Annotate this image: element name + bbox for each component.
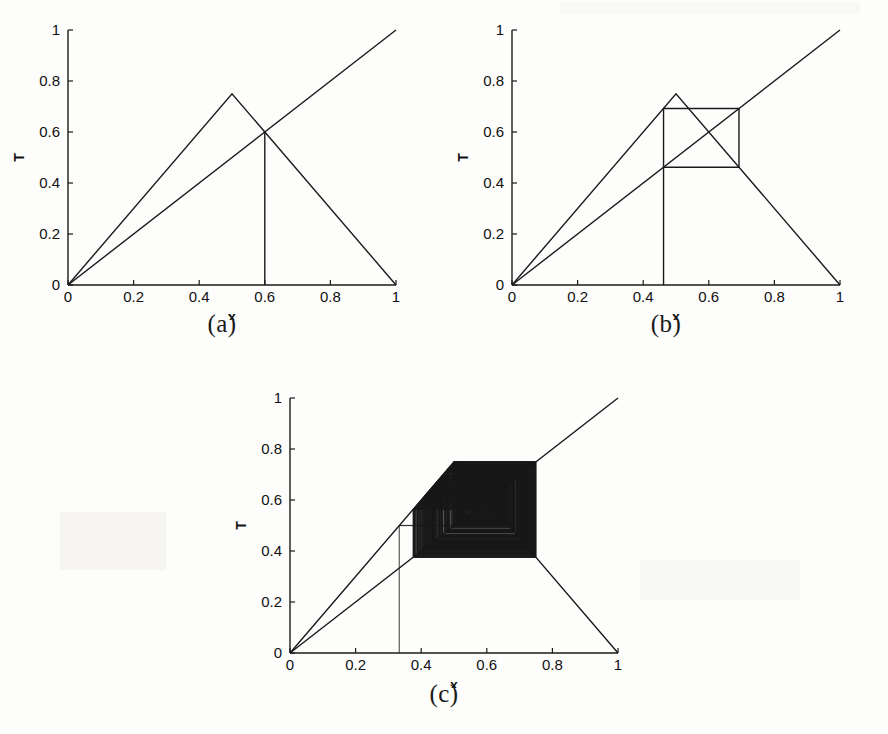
panel-a-plot: 00.20.40.60.8100.20.40.60.81xT [0,0,444,320]
y-tick-label: 0 [274,644,282,661]
y-tick-label: 1 [274,389,282,406]
x-tick-label: 0 [64,288,72,305]
y-tick-label: 1 [496,21,504,38]
panel-b-caption: (b) [444,310,888,338]
paper-smudge-left [60,512,166,570]
y-tick-label: 0 [496,276,504,293]
figure-page: 00.20.40.60.8100.20.40.60.81xT (a) 00.20… [0,0,888,734]
x-tick-label: 0.2 [567,288,588,305]
x-tick-label: 0.6 [254,288,275,305]
series-cobweb-chaotic-spiral-pass3 [413,462,536,558]
x-tick-label: 0.4 [189,288,210,305]
y-tick-label: 0.2 [261,593,282,610]
y-tick-label: 0.8 [261,440,282,457]
panel-c: 00.20.40.60.8100.20.40.60.81xT (c) [222,368,666,734]
y-axis-label: T [233,521,249,530]
y-tick-label: 0.6 [39,123,60,140]
y-tick-label: 0.2 [483,225,504,242]
x-tick-label: 1 [836,288,844,305]
series-identity-line [68,30,396,285]
panel-b: 00.20.40.60.8100.20.40.60.81xT (b) [444,0,888,360]
x-tick-label: 0.6 [698,288,719,305]
y-axis-label: T [455,153,471,162]
x-tick-label: 0.8 [764,288,785,305]
x-tick-label: 0.2 [345,656,366,673]
x-tick-label: 0 [286,656,294,673]
panel-c-caption: (c) [222,680,666,708]
x-tick-label: 0.4 [411,656,432,673]
y-tick-label: 0.8 [39,72,60,89]
panel-a: 00.20.40.60.8100.20.40.60.81xT (a) [0,0,444,360]
series-identity-line [512,30,840,285]
y-tick-label: 0.4 [261,542,282,559]
x-tick-label: 0.8 [320,288,341,305]
y-axis-label: T [11,153,27,162]
series-tent-map [68,94,396,285]
y-tick-label: 0.6 [261,491,282,508]
series-tent-map [512,94,840,285]
y-tick-label: 0.6 [483,123,504,140]
series-cobweb-period-2 [664,109,739,285]
x-tick-label: 1 [392,288,400,305]
panel-b-plot: 00.20.40.60.8100.20.40.60.81xT [444,0,888,320]
y-tick-label: 0 [52,276,60,293]
panel-a-caption: (a) [0,310,444,338]
x-tick-label: 1 [614,656,622,673]
y-tick-label: 0.2 [39,225,60,242]
y-tick-label: 0.4 [483,174,504,191]
x-tick-label: 0.8 [542,656,563,673]
x-tick-label: 0.2 [123,288,144,305]
panel-c-plot: 00.20.40.60.8100.20.40.60.81xT [222,368,666,688]
x-tick-label: 0.4 [633,288,654,305]
y-tick-label: 0.8 [483,72,504,89]
x-tick-label: 0.6 [476,656,497,673]
x-tick-label: 0 [508,288,516,305]
y-tick-label: 0.4 [39,174,60,191]
y-tick-label: 1 [52,21,60,38]
